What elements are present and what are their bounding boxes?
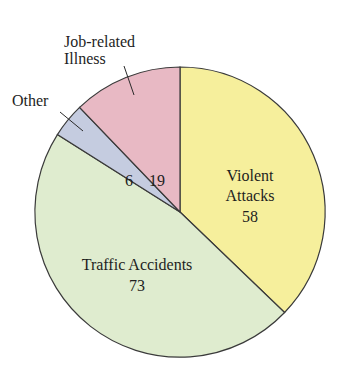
value-traffic: 73 [129, 277, 145, 294]
value-other: 6 [125, 172, 133, 189]
label-other: Other [12, 92, 49, 109]
label-violent-line2: Attacks [226, 187, 275, 204]
label-violent-line1: Violent [226, 167, 274, 184]
label-job-line2: Illness [64, 50, 106, 67]
label-traffic: Traffic Accidents [82, 256, 193, 273]
value-violent: 58 [242, 208, 258, 225]
label-job-line1: Job-related [64, 33, 135, 50]
value-job: 19 [149, 172, 165, 189]
pie-chart: Violent Attacks 58 Traffic Accidents 73 … [0, 0, 341, 369]
